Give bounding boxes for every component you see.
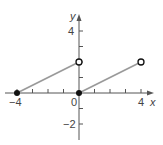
x-tick-label-neg4: −4 <box>9 96 22 108</box>
segment-1-line <box>17 64 76 94</box>
segment-2-line <box>79 64 138 94</box>
y-tick-label-4: 4 <box>68 25 74 37</box>
x-tick-label-0: 0 <box>71 96 77 108</box>
open-point-0-2 <box>76 59 82 65</box>
y-tick-label-neg2: −2 <box>63 118 76 130</box>
x-axis-label: x <box>149 96 156 108</box>
y-axis-label: y <box>69 10 77 22</box>
x-axis-arrow-icon <box>147 91 154 96</box>
open-point-4-2 <box>138 59 144 65</box>
chart-container: y x 4 −2 −4 0 4 <box>0 0 163 145</box>
y-axis-arrow-icon <box>77 14 82 21</box>
y-ticks <box>79 31 83 124</box>
x-tick-label-4: 4 <box>138 96 144 108</box>
piecewise-graph: y x 4 −2 −4 0 4 <box>0 0 163 145</box>
